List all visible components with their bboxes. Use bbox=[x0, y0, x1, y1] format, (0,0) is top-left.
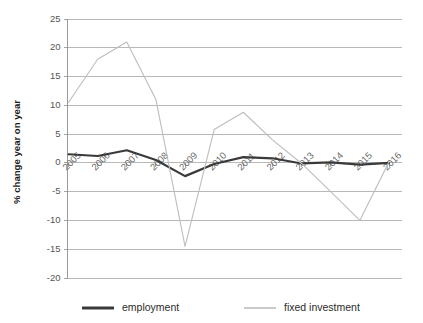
series-line-fixed-investment bbox=[69, 42, 390, 246]
chart-legend: employmentfixed investment bbox=[82, 301, 360, 313]
x-tick-label: 2011 bbox=[235, 150, 257, 172]
x-tick-label: 2009 bbox=[177, 150, 200, 173]
y-tick-label: -10 bbox=[47, 214, 61, 225]
y-tick-label: 25 bbox=[50, 13, 61, 24]
x-tick-label: 2015 bbox=[351, 150, 374, 173]
line-chart: 2520151050-5-10-15-20 200520062007200820… bbox=[0, 0, 423, 323]
y-tick-label: -15 bbox=[47, 243, 61, 254]
y-tick-label: 15 bbox=[50, 70, 61, 81]
x-tick-label: 2013 bbox=[293, 150, 316, 173]
y-tick-label: 20 bbox=[50, 41, 61, 52]
y-axis-title: % change year on year bbox=[11, 100, 22, 204]
gridlines-group bbox=[68, 19, 403, 278]
y-tick-label: 5 bbox=[55, 128, 60, 139]
y-tick-label: -5 bbox=[52, 185, 60, 196]
y-tick-label: 0 bbox=[55, 156, 60, 167]
y-tick-label: -20 bbox=[47, 272, 61, 283]
y-tick-label: 10 bbox=[50, 99, 61, 110]
x-tick-label: 2014 bbox=[322, 150, 345, 173]
legend-label-fixed-investment: fixed investment bbox=[284, 301, 360, 313]
x-tick-label: 2016 bbox=[381, 150, 404, 173]
chart-container: 2520151050-5-10-15-20 200520062007200820… bbox=[0, 0, 423, 323]
legend-label-employment: employment bbox=[122, 301, 179, 313]
series-group bbox=[69, 42, 390, 246]
y-axis-ticks-group: 2520151050-5-10-15-20 bbox=[47, 13, 68, 283]
x-tick-label: 2005 bbox=[60, 150, 83, 173]
